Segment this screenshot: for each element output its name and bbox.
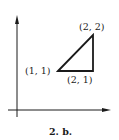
triangle bbox=[58, 35, 93, 71]
vertex-label-2-2: (2, 2) bbox=[79, 22, 105, 32]
figure-caption: 2. b. bbox=[49, 126, 72, 137]
y-axis-arrow-icon bbox=[15, 15, 19, 24]
vertex-label-1-1: (1, 1) bbox=[25, 66, 51, 76]
vertex-label-2-1: (2, 1) bbox=[67, 75, 93, 85]
x-axis-arrow-icon bbox=[102, 108, 111, 112]
